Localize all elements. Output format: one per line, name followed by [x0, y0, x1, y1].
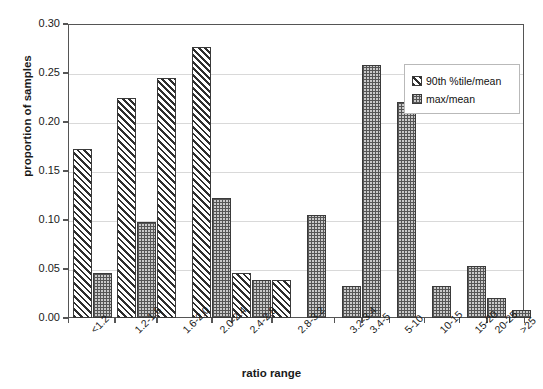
chart-legend: 90th %tile/mean max/mean [404, 64, 520, 114]
legend-item-90th-pctile-mean: 90th %tile/mean [412, 75, 513, 87]
x-tick-mark [334, 318, 335, 323]
bar [362, 65, 382, 318]
legend-label: max/mean [426, 93, 475, 105]
y-tick-label: 0.20 [22, 115, 60, 127]
bar [117, 98, 137, 319]
x-tick-mark [211, 318, 212, 323]
bar [467, 266, 487, 318]
bar [342, 286, 362, 318]
bar [157, 78, 177, 318]
y-tick-label: 0.15 [22, 164, 60, 176]
legend-swatch-diagonal-hatch-icon [412, 76, 422, 86]
bar [137, 222, 157, 318]
bar [192, 47, 212, 319]
y-tick-label: 0.00 [22, 311, 60, 323]
y-tick-label: 0.25 [22, 66, 60, 78]
legend-item-max-mean: max/mean [412, 93, 513, 105]
bar [307, 215, 327, 318]
x-axis-title: ratio range [0, 367, 543, 379]
y-tick-label: 0.30 [22, 17, 60, 29]
bar [73, 149, 93, 319]
x-tick-mark [114, 318, 115, 323]
bar-chart: proportion of samples 0.000.050.100.150.… [0, 0, 543, 389]
x-tick-mark [68, 318, 69, 323]
y-tick-label: 0.05 [22, 262, 60, 274]
legend-label: 90th %tile/mean [426, 75, 501, 87]
bar [212, 198, 232, 319]
bar [397, 102, 417, 318]
y-tick-label: 0.10 [22, 213, 60, 225]
bar [432, 286, 452, 318]
legend-swatch-checkerboard-icon [412, 94, 422, 104]
